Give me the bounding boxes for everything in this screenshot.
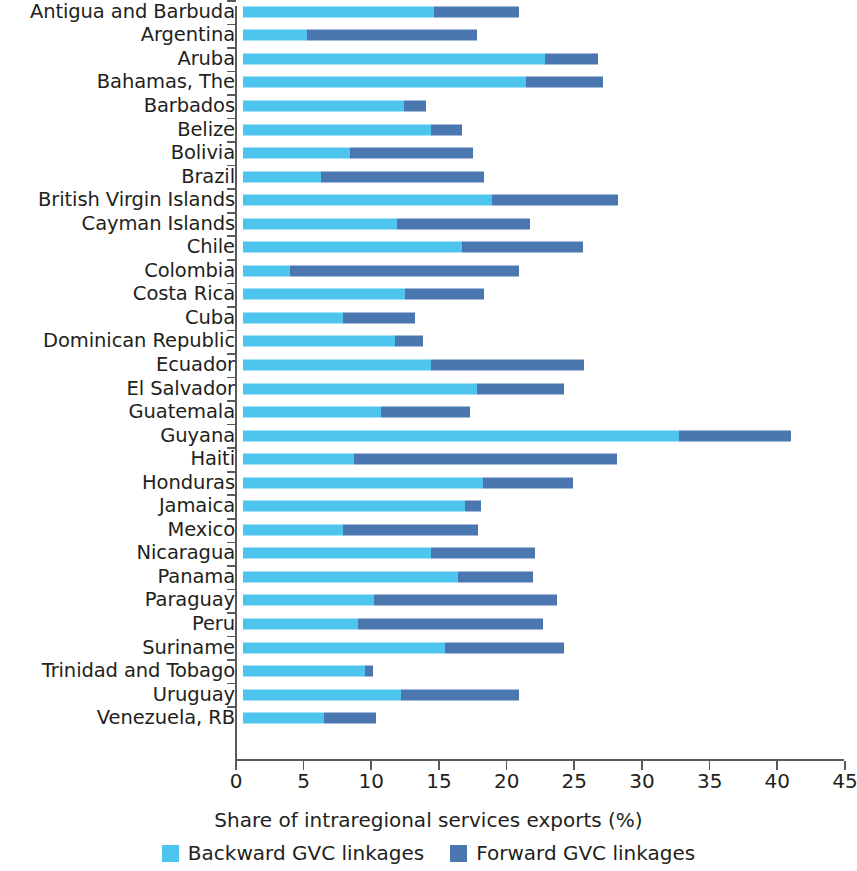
- bar-segment-backward: [243, 171, 321, 182]
- bar-segment-backward: [243, 124, 431, 135]
- stacked-bar: [243, 524, 478, 535]
- chart-row: Aruba: [0, 47, 857, 71]
- chart-row: Antigua and Barbuda: [0, 0, 857, 24]
- x-axis-tick-label: 20: [494, 771, 519, 791]
- category-label: Cayman Islands: [82, 214, 235, 234]
- bar-segment-backward: [243, 359, 431, 370]
- category-label: Jamaica: [159, 497, 235, 517]
- stacked-bar: [243, 618, 543, 629]
- stacked-bar: [243, 571, 533, 582]
- stacked-bar: [243, 242, 583, 253]
- category-label: Argentina: [141, 26, 235, 46]
- bar-segment-backward: [243, 713, 324, 724]
- chart-row: Peru: [0, 612, 857, 636]
- stacked-bar: [243, 30, 477, 41]
- bar-segment-backward: [243, 336, 395, 347]
- chart-row: Guatemala: [0, 400, 857, 424]
- bar-segment-backward: [243, 265, 290, 276]
- chart-row: British Virgin Islands: [0, 188, 857, 212]
- bar-segment-forward: [321, 171, 483, 182]
- stacked-bar: [243, 195, 618, 206]
- category-label: Trinidad and Tobago: [42, 661, 235, 681]
- chart-rows: Antigua and BarbudaArgentinaArubaBahamas…: [0, 0, 857, 730]
- chart-row: Jamaica: [0, 494, 857, 518]
- bar-segment-backward: [243, 148, 350, 159]
- bar-segment-forward: [358, 618, 543, 629]
- chart-row: Costa Rica: [0, 283, 857, 307]
- chart-row: Panama: [0, 565, 857, 589]
- category-label: Bahamas, The: [97, 73, 235, 93]
- category-label: Venezuela, RB: [97, 708, 235, 728]
- bar-segment-forward: [477, 383, 564, 394]
- bar-segment-backward: [243, 407, 381, 418]
- chart-row: Guyana: [0, 424, 857, 448]
- chart-legend: Backward GVC linkagesForward GVC linkage…: [0, 841, 857, 865]
- chart-row: Nicaragua: [0, 542, 857, 566]
- category-label: Brazil: [181, 167, 235, 187]
- bar-segment-forward: [395, 336, 423, 347]
- x-axis-line: [235, 759, 844, 761]
- chart-row: Barbados: [0, 94, 857, 118]
- bar-segment-forward: [381, 407, 470, 418]
- bar-segment-backward: [243, 454, 354, 465]
- chart-row: Ecuador: [0, 353, 857, 377]
- category-label: Costa Rica: [133, 285, 235, 305]
- bar-segment-forward: [679, 430, 791, 441]
- bar-segment-forward: [365, 666, 373, 677]
- legend-swatch-icon: [450, 845, 467, 862]
- bar-segment-forward: [343, 312, 415, 323]
- chart-row: Uruguay: [0, 683, 857, 707]
- category-label: Belize: [177, 120, 235, 140]
- category-label: Barbados: [144, 96, 235, 116]
- chart-row: Argentina: [0, 24, 857, 48]
- bar-segment-backward: [243, 312, 343, 323]
- category-label: Bolivia: [171, 143, 235, 163]
- bar-segment-backward: [243, 595, 374, 606]
- category-label: Guatemala: [129, 402, 235, 422]
- legend-label: Forward GVC linkages: [476, 841, 695, 865]
- stacked-bar: [243, 171, 484, 182]
- bar-segment-backward: [243, 689, 401, 700]
- x-axis-tick-label: 0: [230, 771, 243, 791]
- stacked-bar: [243, 77, 603, 88]
- stacked-bar: [243, 265, 519, 276]
- stacked-bar: [243, 6, 519, 17]
- bar-segment-forward: [350, 148, 473, 159]
- category-label: Uruguay: [153, 685, 235, 705]
- bar-segment-backward: [243, 195, 492, 206]
- x-axis-tick-label: 15: [426, 771, 451, 791]
- bar-segment-backward: [243, 571, 458, 582]
- chart-row: Venezuela, RB: [0, 706, 857, 730]
- chart-row: Paraguay: [0, 589, 857, 613]
- bar-segment-backward: [243, 501, 465, 512]
- stacked-bar: [243, 148, 473, 159]
- bar-segment-backward: [243, 548, 431, 559]
- category-label: Chile: [187, 237, 235, 257]
- bar-segment-forward: [290, 265, 519, 276]
- stacked-bar: [243, 53, 598, 64]
- bar-segment-forward: [431, 124, 462, 135]
- stacked-bar: [243, 713, 376, 724]
- bar-segment-forward: [458, 571, 532, 582]
- stacked-bar: [243, 666, 373, 677]
- bar-segment-backward: [243, 524, 343, 535]
- category-label: Mexico: [168, 520, 236, 540]
- stacked-bar: [243, 595, 557, 606]
- category-label: Nicaragua: [137, 544, 235, 564]
- bar-segment-forward: [307, 30, 478, 41]
- bar-segment-forward: [483, 477, 574, 488]
- chart-row: Trinidad and Tobago: [0, 659, 857, 683]
- category-label: Honduras: [142, 473, 235, 493]
- category-label: British Virgin Islands: [38, 190, 235, 210]
- bar-segment-backward: [243, 6, 434, 17]
- chart-row: Dominican Republic: [0, 330, 857, 354]
- bar-segment-forward: [401, 689, 519, 700]
- chart-row: Haiti: [0, 447, 857, 471]
- chart-row: Cayman Islands: [0, 212, 857, 236]
- x-axis-tick-label: 45: [832, 771, 857, 791]
- bar-segment-forward: [462, 242, 582, 253]
- x-axis-tick-label: 35: [697, 771, 722, 791]
- stacked-bar: [243, 218, 530, 229]
- chart-row: Bolivia: [0, 141, 857, 165]
- stacked-bar: [243, 454, 617, 465]
